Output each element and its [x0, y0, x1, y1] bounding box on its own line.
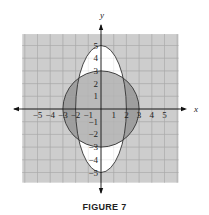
y-tick-label: −4 — [88, 155, 98, 165]
y-tick-label: 5 — [94, 41, 99, 51]
y-axis-label: y — [99, 10, 104, 20]
y-tick-label: 4 — [94, 53, 99, 63]
figure-caption: FIGURE 7 — [0, 202, 209, 212]
x-tick-label: 3 — [137, 110, 142, 120]
y-tick-label: −3 — [88, 142, 98, 152]
y-tick-label: 3 — [94, 66, 99, 76]
x-tick-label: 4 — [150, 110, 155, 120]
x-tick-label: −4 — [45, 110, 55, 120]
x-tick-label: −2 — [71, 110, 81, 120]
y-axis-down-arrow-icon — [99, 188, 103, 194]
x-tick-label: −5 — [33, 110, 43, 120]
x-tick-label: −3 — [58, 110, 68, 120]
figure-7-graph: xy−5−4−3−2−11234554321−1−2−3−4−5 — [0, 0, 209, 200]
y-tick-label: −1 — [88, 117, 98, 127]
x-axis-right-arrow-icon — [181, 107, 187, 111]
y-tick-label: −2 — [88, 129, 98, 139]
x-tick-label: 2 — [124, 110, 129, 120]
x-axis-label: x — [193, 104, 198, 114]
x-tick-label: 5 — [162, 110, 167, 120]
y-tick-label: 1 — [94, 91, 99, 101]
x-tick-label: 1 — [111, 110, 116, 120]
y-axis-up-arrow-icon — [99, 24, 103, 30]
x-axis-left-arrow-icon — [13, 107, 19, 111]
y-tick-label: −5 — [88, 168, 98, 178]
y-tick-label: 2 — [94, 79, 99, 89]
